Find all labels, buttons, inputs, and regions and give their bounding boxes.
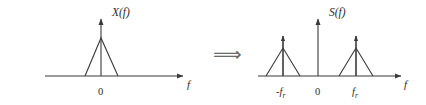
tick-label-negative-fr: -fr bbox=[276, 86, 285, 100]
left-x-axis-label: f bbox=[187, 78, 192, 90]
right-plot-group: S(f) f -fr 0 fr bbox=[258, 6, 409, 100]
left-plot-group: X(f) f 0 bbox=[45, 6, 192, 97]
left-origin-label: 0 bbox=[98, 86, 103, 97]
right-origin-label: 0 bbox=[315, 86, 320, 97]
right-y-axis-label: S(f) bbox=[329, 6, 346, 19]
tick-label-positive-fr: fr bbox=[352, 86, 358, 100]
spectrum-figure: X(f) f 0 ⟹ S(f) f -fr 0 fr bbox=[0, 0, 426, 105]
implies-arrow-icon: ⟹ bbox=[213, 42, 242, 66]
figure-canvas: X(f) f 0 ⟹ S(f) f -fr 0 fr bbox=[0, 0, 426, 105]
left-y-axis-label: X(f) bbox=[111, 6, 130, 19]
right-x-axis-label: f bbox=[404, 78, 409, 90]
